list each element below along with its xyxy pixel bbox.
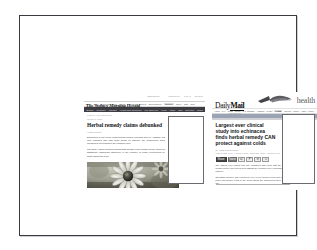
pinterest-share-button[interactable]: P — [246, 157, 253, 162]
dm-masthead: DailyMail MailOnline health — [212, 92, 317, 109]
smh-masthead: The Sydney Morning Herald smh.com.au Sub… — [84, 92, 205, 102]
email-share-button[interactable]: ✉ — [238, 157, 245, 162]
dm-logo-daily: Daily — [215, 101, 230, 110]
smh-nav-lifestyle[interactable]: Lifestyle — [164, 103, 174, 105]
dm-footer-rule — [216, 184, 290, 185]
screenshot-sydney-morning-herald[interactable]: The Sydney Morning Herald smh.com.au Sub… — [84, 92, 205, 190]
smh-nav-travel[interactable]: Travel — [176, 103, 182, 105]
smh-nav-jobs[interactable]: Jobs — [190, 103, 194, 105]
smh-paragraph: The study, which followed participants a… — [87, 148, 165, 158]
dm-paragraph: The largest ever clinical trial into ech… — [216, 164, 290, 173]
print-button[interactable]: ⎙ — [262, 157, 269, 162]
smh-subnav-diet[interactable]: Diet — [178, 109, 182, 111]
smh-subnav-exercise[interactable]: Exercise — [185, 109, 194, 111]
smh-nav-cars[interactable]: Cars — [184, 103, 188, 105]
smh-nav-entertainment[interactable]: Entertainment — [149, 103, 162, 105]
dm-section-word: health — [297, 96, 315, 105]
smh-article-photo — [87, 162, 179, 188]
canvas-frame: The Sydney Morning Herald smh.com.au Sub… — [19, 15, 297, 236]
smh-site-title: The Sydney Morning Herald — [86, 103, 140, 109]
smh-subnav-life-and-love[interactable]: Life and Love — [145, 109, 159, 111]
smh-overlay-panel[interactable] — [168, 116, 204, 184]
dm-logo-mail: Mail — [230, 101, 244, 111]
facebook-share-button[interactable]: Share — [216, 157, 227, 162]
smh-utility-links[interactable]: Subscribe Log in Search — [166, 95, 203, 97]
smh-paragraph: Echinacea is one of the most popular her… — [87, 136, 165, 146]
echinacea-flower-image — [87, 162, 179, 188]
bird-swoosh-icon — [257, 94, 293, 105]
smh-subnav-news[interactable]: News — [197, 109, 203, 111]
smh-subnav-home[interactable]: Home — [169, 109, 175, 111]
smh-tagline: smh.com.au — [148, 95, 160, 97]
twitter-share-button[interactable]: Tweet — [228, 157, 237, 162]
screenshot-daily-mail-health[interactable]: DailyMail MailOnline health Home U.K. Ne… — [212, 92, 317, 190]
smh-utility-login[interactable]: Log in — [184, 95, 191, 97]
dm-overlay-panel[interactable] — [282, 114, 315, 184]
smh-utility-search[interactable]: Search — [195, 95, 203, 97]
linkedin-share-button[interactable]: in — [254, 157, 261, 162]
dm-article-headline: Largest ever clinical study into echinac… — [216, 122, 278, 146]
dm-logo[interactable]: DailyMail — [215, 102, 244, 110]
smh-utility-subscribe[interactable]: Subscribe — [169, 95, 181, 97]
smh-subnav-food[interactable]: Food — [161, 109, 166, 111]
dm-section-branding: health — [257, 93, 315, 106]
